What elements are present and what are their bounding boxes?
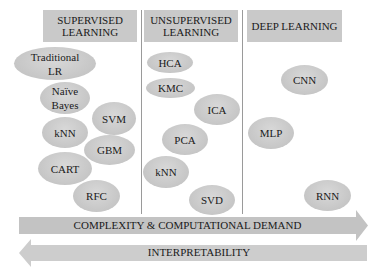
- ellipse-knn-supervised: kNN: [42, 117, 88, 148]
- ellipse-pca: PCA: [162, 124, 208, 155]
- interpretability-arrow: INTERPRETABILITY: [19, 239, 369, 267]
- ellipse-label: RNN: [316, 189, 339, 203]
- ellipse-naive-bayes: Naïve Bayes: [40, 82, 90, 114]
- complexity-label: COMPLEXITY & COMPUTATIONAL DEMAND: [19, 219, 356, 231]
- column-divider: [242, 10, 243, 214]
- ellipse-label: GBM: [97, 143, 122, 157]
- ellipse-rnn: RNN: [304, 180, 351, 211]
- ellipse-label: SVM: [102, 112, 126, 126]
- ellipse-label: MLP: [260, 126, 283, 140]
- header-unsupervised-learning: UNSUPERVISED LEARNING: [144, 10, 238, 42]
- ellipse-label: kNN: [54, 126, 75, 140]
- ellipse-traditional-lr: Traditional LR: [14, 47, 96, 80]
- ellipse-label: CART: [51, 162, 80, 176]
- ellipse-svm: SVM: [92, 102, 136, 135]
- ellipse-kmc: KMC: [146, 78, 195, 98]
- ellipse-label: RFC: [86, 189, 107, 203]
- ellipse-label: Bayes: [52, 98, 79, 112]
- ellipse-cart: CART: [38, 152, 92, 185]
- header-line: LEARNING: [57, 26, 123, 38]
- ellipse-label: LR: [31, 64, 80, 78]
- ellipse-hca: HCA: [147, 52, 193, 73]
- ellipse-rfc: RFC: [73, 180, 120, 212]
- ellipse-ica: ICA: [194, 94, 240, 125]
- ellipse-cnn: CNN: [281, 65, 328, 95]
- ellipse-label: HCA: [158, 56, 181, 70]
- header-line: DEEP LEARNING: [251, 20, 337, 32]
- header-supervised-learning: SUPERVISED LEARNING: [43, 10, 137, 42]
- ellipse-knn-unsupervised: kNN: [143, 156, 189, 188]
- header-line: SUPERVISED: [57, 14, 123, 26]
- header-line: LEARNING: [150, 26, 232, 38]
- ellipse-label: Naïve: [52, 84, 79, 98]
- column-divider: [141, 10, 142, 214]
- complexity-arrow: COMPLEXITY & COMPUTATIONAL DEMAND: [19, 210, 369, 241]
- ellipse-gbm: GBM: [84, 135, 135, 165]
- header-line: UNSUPERVISED: [150, 14, 232, 26]
- ellipse-label: KMC: [158, 81, 183, 95]
- ellipse-label: CNN: [293, 73, 316, 87]
- ellipse-label: PCA: [174, 133, 195, 147]
- interpretability-label: INTERPRETABILITY: [31, 246, 367, 258]
- ellipse-label: SVD: [201, 193, 223, 207]
- ellipse-label: Traditional: [31, 50, 80, 64]
- header-deep-learning: DEEP LEARNING: [247, 10, 342, 42]
- ellipse-mlp: MLP: [248, 117, 294, 149]
- ellipse-label: ICA: [208, 103, 227, 117]
- ellipse-label: kNN: [155, 165, 176, 179]
